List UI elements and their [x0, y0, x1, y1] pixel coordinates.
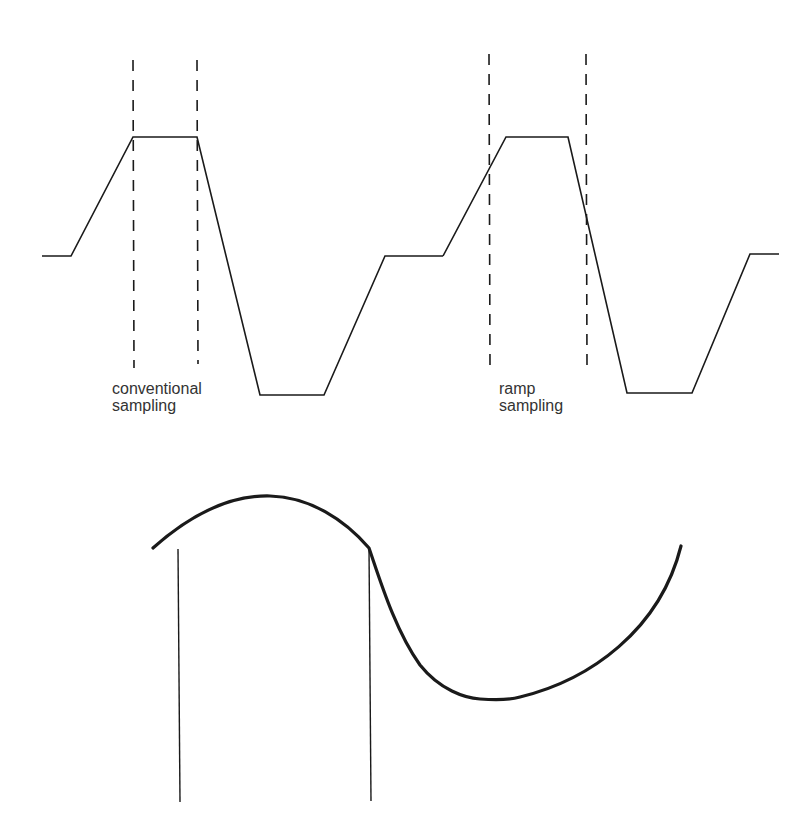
ramp-sample-line-left	[489, 54, 490, 366]
ramp-waveform	[443, 137, 779, 393]
sample-line-right	[369, 548, 371, 801]
ramp-label-line1: ramp	[499, 380, 563, 397]
conventional-sampling-label: conventional sampling	[112, 380, 202, 414]
conventional-label-line1: conventional	[112, 380, 202, 397]
conventional-sample-line-left	[133, 60, 134, 368]
conventional-label-line2: sampling	[112, 397, 202, 414]
conventional-waveform	[42, 137, 443, 395]
sine-curve	[153, 496, 681, 700]
ramp-label-line2: sampling	[499, 397, 563, 414]
ramp-sampling-label: ramp sampling	[499, 380, 563, 414]
conventional-sample-line-right	[197, 60, 198, 364]
ramp-sample-line-right	[586, 54, 587, 366]
sample-line-left	[178, 549, 180, 802]
